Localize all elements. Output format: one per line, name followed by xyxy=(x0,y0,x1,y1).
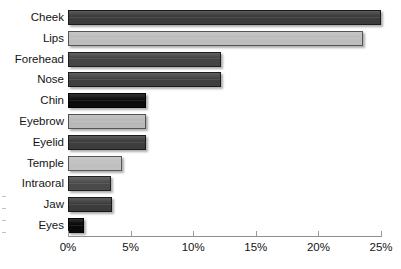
x-tick-label-10pct: 10% xyxy=(182,241,205,254)
x-tick xyxy=(256,231,257,237)
bar-row[interactable] xyxy=(68,93,381,108)
bar-row[interactable] xyxy=(68,135,381,150)
y-axis-label-lips: Lips xyxy=(2,31,64,46)
bar-ridge xyxy=(69,79,220,80)
bar-ridge xyxy=(69,100,145,101)
x-tick xyxy=(318,231,319,237)
bar-intraoral[interactable] xyxy=(68,176,111,191)
bar-highlight xyxy=(69,73,220,78)
bar-highlight xyxy=(69,32,362,37)
scan-artifact xyxy=(2,208,6,209)
bar-eyes[interactable] xyxy=(68,218,84,233)
bar-row[interactable] xyxy=(68,197,381,212)
bar-highlight xyxy=(69,53,220,58)
y-axis-label-jaw: Jaw xyxy=(2,197,64,212)
bar-ridge xyxy=(69,204,111,205)
bar-jaw[interactable] xyxy=(68,197,112,212)
bar-ridge xyxy=(69,17,380,18)
bar-row[interactable] xyxy=(68,52,381,67)
bar-nose[interactable] xyxy=(68,72,221,87)
x-tick-label-5pct: 5% xyxy=(122,241,139,254)
x-tick xyxy=(131,231,132,237)
x-tick xyxy=(381,231,382,237)
bar-row[interactable] xyxy=(68,31,381,46)
bar-chart: CheekLipsForeheadNoseChinEyebrowEyelidTe… xyxy=(0,0,401,269)
bar-row[interactable] xyxy=(68,156,381,171)
bar-row[interactable] xyxy=(68,10,381,25)
bar-highlight xyxy=(69,94,145,99)
y-axis-label-cheek: Cheek xyxy=(2,10,64,25)
x-axis-line xyxy=(68,236,382,237)
x-tick-label-0pct: 0% xyxy=(60,241,77,254)
bar-ridge xyxy=(69,225,83,226)
x-tick xyxy=(68,231,69,237)
bar-ridge xyxy=(69,183,110,184)
bar-ridge xyxy=(69,142,145,143)
y-axis-label-eyes: Eyes xyxy=(2,218,64,233)
scan-artifact xyxy=(2,220,6,221)
y-axis-label-temple: Temple xyxy=(2,156,64,171)
bar-highlight xyxy=(69,177,110,182)
bar-highlight xyxy=(69,11,380,16)
bar-highlight xyxy=(69,157,121,162)
y-axis-label-eyelid: Eyelid xyxy=(2,135,64,150)
bar-highlight xyxy=(69,115,145,120)
y-axis-label-nose: Nose xyxy=(2,72,64,87)
bar-highlight xyxy=(69,198,111,203)
bar-ridge xyxy=(69,38,362,39)
plot-area xyxy=(68,8,381,236)
scan-artifact xyxy=(2,196,6,197)
y-axis-label-chin: Chin xyxy=(2,93,64,108)
bar-forehead[interactable] xyxy=(68,52,221,67)
x-tick-label-20pct: 20% xyxy=(307,241,330,254)
bar-highlight xyxy=(69,219,83,224)
x-tick-label-15pct: 15% xyxy=(244,241,267,254)
bar-ridge xyxy=(69,58,220,59)
y-axis-category-labels: CheekLipsForeheadNoseChinEyebrowEyelidTe… xyxy=(0,8,64,236)
bar-row[interactable] xyxy=(68,218,381,233)
bar-temple[interactable] xyxy=(68,156,122,171)
y-axis-label-forehead: Forehead xyxy=(2,52,64,67)
bar-chin[interactable] xyxy=(68,93,146,108)
y-axis-label-eyebrow: Eyebrow xyxy=(2,114,64,129)
bar-eyebrow[interactable] xyxy=(68,114,146,129)
y-axis-label-intraoral: Intraoral xyxy=(2,176,64,191)
bar-highlight xyxy=(69,136,145,141)
bar-row[interactable] xyxy=(68,72,381,87)
bar-row[interactable] xyxy=(68,114,381,129)
bar-eyelid[interactable] xyxy=(68,135,146,150)
bar-ridge xyxy=(69,121,145,122)
bar-cheek[interactable] xyxy=(68,10,381,25)
bar-lips[interactable] xyxy=(68,31,363,46)
scan-artifact xyxy=(2,232,6,233)
x-tick xyxy=(193,231,194,237)
bar-row[interactable] xyxy=(68,176,381,191)
bar-ridge xyxy=(69,162,121,163)
x-tick-label-25pct: 25% xyxy=(369,241,392,254)
